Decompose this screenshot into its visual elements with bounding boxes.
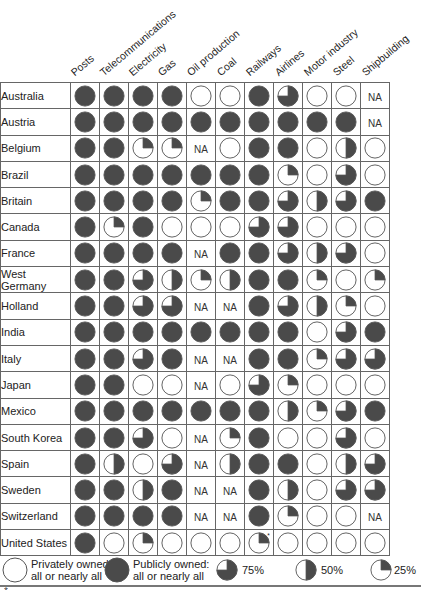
- cell-motor-industry: [303, 503, 332, 529]
- cell-posts: [71, 398, 100, 424]
- cell-airlines: [274, 214, 303, 240]
- pie-25-icon: [103, 216, 125, 238]
- svg-text:*: *: [267, 532, 270, 539]
- pie-50-icon: [335, 453, 357, 475]
- full-circle-icon: [248, 453, 270, 475]
- country-label: Holland: [1, 293, 71, 319]
- cell-gas: [158, 293, 187, 319]
- cell-posts: [71, 240, 100, 266]
- cell-electricity: [129, 293, 158, 319]
- cell-telecommunications: [100, 161, 129, 187]
- cell-steel: [332, 240, 361, 266]
- cell-oil-production: [187, 83, 216, 109]
- pie-75-icon: [277, 295, 299, 317]
- full-circle-icon: [190, 111, 212, 133]
- full-circle-icon: [219, 111, 241, 133]
- empty-circle-icon: [364, 216, 386, 238]
- full-circle-icon: [103, 111, 125, 133]
- country-label: Mexico: [1, 398, 71, 424]
- legend-50-label: 50%: [321, 564, 343, 576]
- pie-50-icon: [295, 559, 317, 581]
- cell-coal: [216, 109, 245, 135]
- cell-coal: [216, 188, 245, 214]
- cell-motor-industry: [303, 109, 332, 135]
- full-circle-icon: [277, 111, 299, 133]
- full-circle-icon: [219, 164, 241, 186]
- cell-motor-industry: [303, 83, 332, 109]
- cell-motor-industry: [303, 372, 332, 398]
- full-circle-icon: [74, 111, 96, 133]
- na-label: NA: [223, 486, 237, 497]
- full-circle-icon: [364, 190, 386, 212]
- full-circle-icon: [248, 479, 270, 501]
- cell-gas: [158, 267, 187, 293]
- cell-airlines: [274, 345, 303, 371]
- cell-coal: NA: [216, 503, 245, 529]
- pie-75-icon: [335, 479, 357, 501]
- cell-railways: [245, 398, 274, 424]
- cell-telecommunications: [100, 319, 129, 345]
- cell-motor-industry: [303, 477, 332, 503]
- cell-steel: [332, 109, 361, 135]
- column-header-oil-production: Oil production: [185, 27, 242, 78]
- pie-75-icon: [364, 453, 386, 475]
- pie-50-icon: [335, 137, 357, 159]
- full-circle-icon: [248, 505, 270, 527]
- empty-circle-icon: [364, 137, 386, 159]
- cell-railways: [245, 188, 274, 214]
- full-circle-icon: [74, 400, 96, 422]
- cell-railways: [245, 109, 274, 135]
- column-header-steel: Steel: [330, 53, 356, 78]
- full-circle-icon: [104, 557, 130, 583]
- cell-shipbuilding: [361, 451, 390, 477]
- empty-circle-icon: [161, 532, 183, 554]
- full-circle-icon: [132, 216, 154, 238]
- cell-posts: [71, 530, 100, 556]
- cell-railways: [245, 372, 274, 398]
- pie-25-icon: [219, 427, 241, 449]
- full-circle-icon: [132, 400, 154, 422]
- cell-motor-industry: [303, 267, 332, 293]
- table-row: SwitzerlandNANANA: [1, 503, 390, 529]
- pie-50-icon: [132, 479, 154, 501]
- legend-50: 50%: [295, 559, 343, 581]
- empty-circle-icon: [219, 532, 241, 554]
- empty-circle-icon: [335, 532, 357, 554]
- cell-shipbuilding: [361, 267, 390, 293]
- cell-motor-industry: [303, 530, 332, 556]
- full-circle-icon: [277, 269, 299, 291]
- cell-airlines: [274, 161, 303, 187]
- cell-electricity: [129, 240, 158, 266]
- cell-coal: [216, 135, 245, 161]
- table-row: AustraliaNA: [1, 83, 390, 109]
- empty-circle-icon: [161, 374, 183, 396]
- cell-railways: [245, 424, 274, 450]
- full-circle-icon: [306, 111, 328, 133]
- empty-circle-icon: [306, 374, 328, 396]
- na-label: NA: [194, 302, 208, 313]
- empty-circle-icon: [335, 216, 357, 238]
- column-headers: PostsTelecommunicationsElectricityGasOil…: [0, 0, 421, 82]
- cell-shipbuilding: NA: [361, 503, 390, 529]
- cell-posts: [71, 188, 100, 214]
- cell-telecommunications: [100, 109, 129, 135]
- empty-circle-icon: [103, 532, 125, 554]
- cell-electricity: [129, 530, 158, 556]
- full-circle-icon: [132, 111, 154, 133]
- full-circle-icon: [132, 505, 154, 527]
- cell-shipbuilding: [361, 135, 390, 161]
- na-label: NA: [194, 144, 208, 155]
- cell-telecommunications: [100, 83, 129, 109]
- full-circle-icon: [132, 190, 154, 212]
- column-header-motor-industry: Motor industry: [301, 26, 360, 78]
- pie-25-icon: *: [248, 532, 270, 554]
- pie-75-icon: [364, 479, 386, 501]
- cell-shipbuilding: [361, 530, 390, 556]
- cell-shipbuilding: [361, 319, 390, 345]
- cell-airlines: [274, 188, 303, 214]
- full-circle-icon: [74, 295, 96, 317]
- cell-electricity: [129, 372, 158, 398]
- cell-steel: [332, 135, 361, 161]
- empty-circle-icon: [277, 532, 299, 554]
- legend-private: Privately owned:all or nearly all: [2, 557, 112, 583]
